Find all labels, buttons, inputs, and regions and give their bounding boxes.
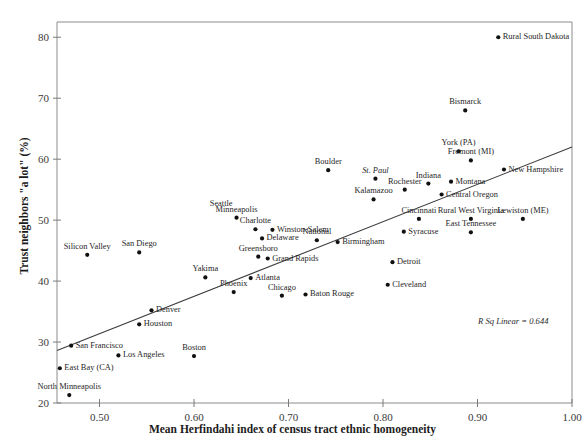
data-point [463, 108, 467, 112]
data-point [67, 393, 71, 397]
x-tick-label: 0.70 [279, 411, 298, 423]
data-point-label: Cincinnati [401, 207, 436, 215]
data-point-label: National [302, 228, 331, 236]
data-point-label: Detroit [397, 258, 421, 266]
data-point-label: Los Angeles [123, 351, 165, 359]
scatter-plot-figure: Mean Herfindahi index of census tract et… [0, 0, 585, 442]
data-point [234, 216, 238, 220]
data-point-label: Boulder [315, 158, 342, 166]
data-point [69, 344, 73, 348]
data-point [417, 217, 421, 221]
data-point [85, 253, 89, 257]
data-point-label: Rural West Virginia [438, 207, 504, 215]
data-point-label: St. Paul [362, 167, 389, 175]
data-point [315, 238, 319, 242]
data-point-label: Lewiston (ME) [497, 207, 548, 215]
r-squared-annotation: R Sq Linear = 0.644 [478, 316, 549, 326]
data-point-label: Delaware [267, 234, 299, 242]
data-point-label: Houston [144, 320, 172, 328]
data-point [426, 181, 430, 185]
data-point-label: Rochester [388, 178, 422, 186]
data-point [137, 250, 141, 254]
data-point-label: Kalamazoo [354, 187, 392, 195]
data-point-label: Greensboro [239, 245, 278, 253]
data-point [203, 275, 207, 279]
y-tick-label: 70 [19, 92, 49, 104]
data-point [496, 35, 500, 39]
x-tick-label: 0.80 [373, 411, 392, 423]
data-point [449, 180, 453, 184]
y-tick-label: 30 [19, 336, 49, 348]
data-point-label: Atlanta [255, 274, 280, 282]
data-point-label: Chicago [268, 284, 296, 292]
x-tick-label: 0.50 [90, 411, 109, 423]
y-tick-label: 20 [19, 397, 49, 409]
data-point [386, 283, 390, 287]
data-point [149, 308, 153, 312]
y-tick-label: 40 [19, 275, 49, 287]
data-point [280, 294, 284, 298]
x-tick-label: 0.60 [184, 411, 203, 423]
data-point [390, 260, 394, 264]
data-point-label: Seattle [210, 200, 233, 208]
data-point [336, 240, 340, 244]
data-point [373, 177, 377, 181]
data-point [58, 366, 62, 370]
x-tick-label: 0.90 [468, 411, 487, 423]
data-point-label: Bismarck [449, 98, 481, 106]
data-point [469, 230, 473, 234]
data-point-label: Charlotte [240, 217, 271, 225]
data-point-label: East Tennessee [446, 220, 497, 228]
data-point [260, 236, 264, 240]
data-point-label: Cleveland [392, 281, 426, 289]
data-point-label: Syracuse [408, 228, 438, 236]
data-point-label: Boston [182, 344, 206, 352]
data-point [270, 228, 274, 232]
y-tick-label: 80 [19, 31, 49, 43]
data-point-label: Fremont (MI) [448, 148, 494, 156]
data-point-label: Birmingham [342, 238, 384, 246]
x-axis-title: Mean Herfindahi index of census tract et… [0, 423, 585, 435]
data-point [469, 158, 473, 162]
data-point [521, 217, 525, 221]
data-point [439, 192, 443, 196]
data-point [232, 290, 236, 294]
data-point-label: Silicon Valley [64, 243, 111, 251]
data-point [326, 168, 330, 172]
data-point-label: Phoenix [220, 280, 247, 288]
data-point-label: New Hampshire [508, 166, 563, 174]
data-point-label: East Bay (CA) [64, 364, 113, 372]
data-point [266, 256, 270, 260]
data-point [116, 353, 120, 357]
plot-canvas [0, 0, 585, 442]
y-tick-label: 60 [19, 153, 49, 165]
data-point-label: Baton Rouge [310, 290, 354, 298]
data-point-label: Grand Rapids [272, 255, 318, 263]
data-point-label: Yakima [193, 265, 219, 273]
data-point-label: Denver [156, 306, 181, 314]
data-point [137, 322, 141, 326]
data-point-label: San Diego [122, 240, 157, 248]
data-point-label: San Francisco [76, 342, 123, 350]
data-point [502, 167, 506, 171]
data-point [256, 255, 260, 259]
data-point [403, 188, 407, 192]
data-point [303, 292, 307, 296]
data-point-label: Montana [456, 178, 486, 186]
data-point [253, 227, 257, 231]
data-point-label: North Minneapolis [38, 383, 102, 391]
data-point-label: Central Oregon [446, 191, 498, 199]
data-point-label: York (PA) [442, 139, 476, 147]
y-tick-label: 50 [19, 214, 49, 226]
x-tick-label: 1.00 [562, 411, 581, 423]
data-point [402, 230, 406, 234]
data-point-label: Rural South Dakota [503, 33, 570, 41]
data-point [249, 276, 253, 280]
data-point [371, 197, 375, 201]
data-point [192, 354, 196, 358]
